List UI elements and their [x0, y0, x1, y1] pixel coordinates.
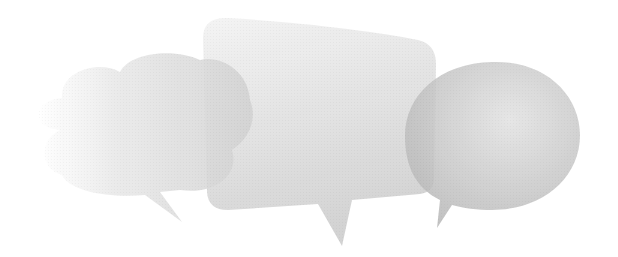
- speech-bubbles-illustration: [0, 0, 618, 257]
- right-ellipse-speech-bubble: [405, 62, 580, 228]
